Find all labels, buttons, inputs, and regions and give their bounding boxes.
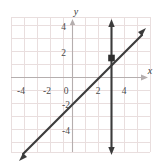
y-axis-label: y bbox=[73, 6, 79, 17]
x-axis-label: x bbox=[147, 65, 153, 76]
x-tick-label-2: 2 bbox=[96, 86, 101, 96]
x-tick-label--4: -4 bbox=[17, 86, 25, 96]
y-tick-label-2: 2 bbox=[61, 48, 66, 58]
x-tick-label--2: -2 bbox=[43, 86, 51, 96]
vertical-line bbox=[108, 19, 114, 155]
vertical-line-arrow-top bbox=[108, 19, 114, 27]
diagonal-line bbox=[19, 28, 146, 161]
y-axis-arrowhead bbox=[70, 19, 75, 25]
x-tick-label-0: 0 bbox=[64, 86, 69, 96]
diagonal-line-arrow-upper bbox=[138, 28, 146, 36]
y-tick-label-4: 4 bbox=[61, 22, 66, 32]
intersection-point bbox=[108, 55, 115, 62]
coordinate-plane-svg: -4 -2 0 2 4 4 2 -2 -4 y x bbox=[0, 0, 154, 167]
graph-figure: -4 -2 0 2 4 4 2 -2 -4 y x bbox=[0, 0, 154, 167]
grid-lines bbox=[11, 17, 150, 152]
x-tick-label-4: 4 bbox=[122, 86, 127, 96]
y-tick-label--4: -4 bbox=[62, 126, 70, 136]
y-tick-label--2: -2 bbox=[62, 100, 70, 110]
diagonal-line-arrow-lower bbox=[19, 153, 27, 161]
vertical-line-arrow-bottom bbox=[108, 147, 114, 155]
